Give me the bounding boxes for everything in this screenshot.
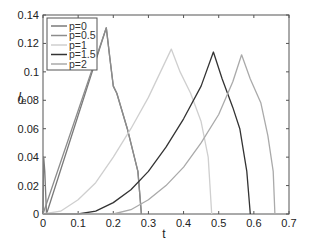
x-tick-label: 0.1 bbox=[70, 217, 85, 229]
x-axis-label: t bbox=[162, 227, 166, 241]
y-tick-label: 0.14 bbox=[18, 9, 39, 21]
y-tick-label: 0.04 bbox=[18, 151, 39, 163]
line-chart: 00.10.20.30.40.50.60.700.020.040.060.080… bbox=[0, 0, 311, 247]
x-tick-label: 0 bbox=[40, 217, 46, 229]
y-tick-label: 0.12 bbox=[18, 37, 39, 49]
y-tick-label: 0.06 bbox=[18, 123, 39, 135]
x-tick-label: 0.2 bbox=[106, 217, 121, 229]
y-axis-label: Ie bbox=[18, 90, 26, 106]
x-tick-label: 0.7 bbox=[281, 217, 296, 229]
x-tick-label: 0.6 bbox=[246, 217, 261, 229]
y-tick-label: 0.1 bbox=[24, 66, 39, 78]
y-tick-label: 0.02 bbox=[18, 180, 39, 192]
legend: p=0p=0.5p=1p=1.5p=2 bbox=[47, 18, 97, 70]
x-tick-label: 0.3 bbox=[141, 217, 156, 229]
x-tick-label: 0.5 bbox=[211, 217, 226, 229]
legend-label: p=2 bbox=[69, 58, 87, 70]
x-tick-label: 0.4 bbox=[176, 217, 191, 229]
y-tick-label: 0 bbox=[33, 208, 39, 220]
